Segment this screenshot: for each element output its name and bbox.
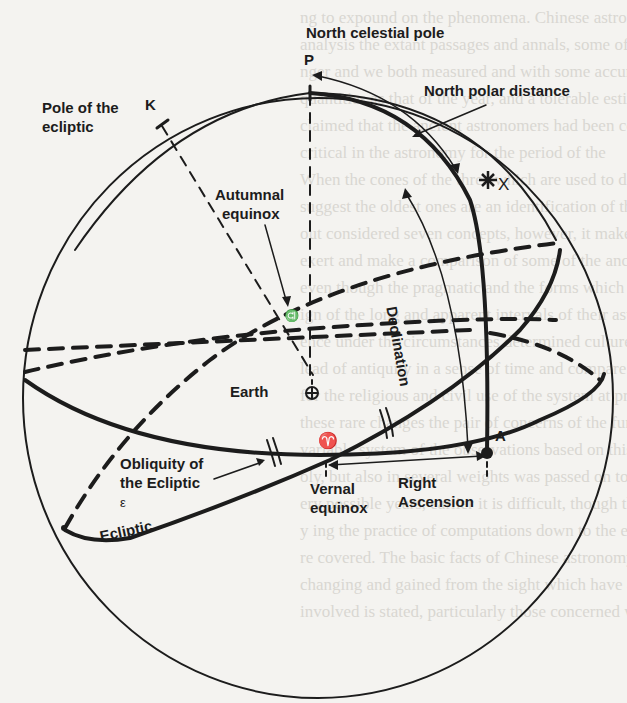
autumnal-equinox-label-1: Autumnal (215, 186, 284, 204)
right-ascension-label-1: Right (398, 474, 436, 492)
celestial-equator-front (25, 374, 604, 455)
epsilon-symbol: ε (120, 494, 126, 512)
right-ascension-label-2: Ascension (398, 493, 474, 511)
ecliptic-equator-left-node (61, 525, 67, 531)
meridian-arc (75, 93, 556, 250)
point-p-label: P (304, 51, 314, 69)
earth-icon (306, 387, 318, 399)
vernal-equinox-label-2: equinox (310, 499, 368, 517)
libra-symbol: ♎ (283, 308, 301, 323)
obliquity-label-2: the Ecliptic (120, 474, 200, 492)
celestial-sphere-outline (23, 98, 613, 698)
obliquity-label-1: Obliquity of (120, 455, 203, 473)
pole-of-ecliptic-label-1: Pole of the (42, 99, 119, 117)
star-x-icon (479, 171, 497, 189)
north-celestial-pole-label: North celestial pole (306, 24, 444, 42)
pole-of-ecliptic-label-2: ecliptic (42, 118, 94, 136)
north-polar-distance-label: North polar distance (424, 82, 570, 100)
point-a-dot (481, 447, 493, 459)
aries-symbol: ♈ (318, 432, 338, 450)
point-a-label: A (495, 427, 506, 445)
dashed-right-segment (490, 333, 600, 380)
autumnal-equinox-label-2: equinox (222, 205, 280, 223)
earth-label: Earth (230, 383, 268, 401)
point-x-label: X (498, 176, 509, 194)
vernal-equinox-label-1: Vernal (310, 480, 355, 498)
point-k-label: K (145, 96, 156, 114)
